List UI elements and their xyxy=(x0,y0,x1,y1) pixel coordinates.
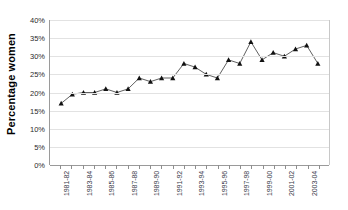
x-axis-tick-mark xyxy=(240,165,241,169)
x-axis-tick-label: 1989-90 xyxy=(153,171,160,196)
x-axis-tick-mark xyxy=(173,165,174,169)
x-axis-tick-mark xyxy=(218,165,219,169)
y-axis-tick-label: 5% xyxy=(34,142,45,151)
y-axis-tick-label: 20% xyxy=(30,88,45,97)
data-point-marker: 1998-99: 34% xyxy=(248,39,253,44)
x-axis-tick-label: 1981-82 xyxy=(63,171,70,196)
x-axis-tick-label: 2001-02 xyxy=(288,171,295,196)
data-point-marker: 1992-93: 28% xyxy=(181,61,186,66)
x-axis-tick-label: 1999-00 xyxy=(266,171,273,196)
data-point-marker: 2004-05: 28% xyxy=(315,61,320,66)
gridline xyxy=(50,147,329,148)
x-axis-tick-mark xyxy=(296,165,297,169)
y-axis-tick-labels: 0%5%10%15%20%25%30%35%40% xyxy=(22,0,48,210)
series-line xyxy=(61,42,318,104)
data-point-marker: 2003-04: 33% xyxy=(304,43,309,48)
x-axis-tick-label: 1985-86 xyxy=(108,171,115,196)
data-point-marker: 1999-00: 29% xyxy=(259,57,264,62)
x-axis-tick-label: 1993-94 xyxy=(198,171,205,196)
data-point-marker: 1996-97: 29% xyxy=(226,57,231,62)
gridline xyxy=(50,111,329,112)
gridline xyxy=(50,56,329,57)
x-axis-tick-mark xyxy=(128,165,129,169)
gridline xyxy=(50,38,329,39)
x-axis-tick-mark xyxy=(251,165,252,169)
gridline xyxy=(50,20,329,21)
y-axis-tick-label: 30% xyxy=(30,52,45,61)
data-point-marker: 2000-01: 31% xyxy=(271,50,276,55)
x-axis-tick-label: 2003-04 xyxy=(311,171,318,196)
x-axis-tick-mark xyxy=(206,165,207,169)
x-axis-tick-label: 1991-92 xyxy=(176,171,183,196)
x-axis-tick-mark xyxy=(285,165,286,169)
x-axis-tick-mark xyxy=(105,165,106,169)
x-axis-tick-mark xyxy=(263,165,264,169)
y-axis-title-text: Percentage women xyxy=(5,33,17,135)
x-axis-tick-mark xyxy=(308,165,309,169)
gridline xyxy=(50,74,329,75)
x-axis-tick-labels: 1981-821983-841985-861987-881989-901991-… xyxy=(49,165,330,210)
x-axis-tick-mark xyxy=(161,165,162,169)
x-axis-tick-mark xyxy=(150,165,151,169)
x-axis-tick-mark xyxy=(184,165,185,169)
gridline xyxy=(50,129,329,130)
x-axis-tick-mark xyxy=(83,165,84,169)
x-axis-tick-label: 1997-98 xyxy=(243,171,250,196)
x-axis-tick-mark xyxy=(94,165,95,169)
data-point-marker: 1985-86: 21% xyxy=(103,86,108,91)
x-axis-tick-mark xyxy=(60,165,61,169)
y-axis-tick-label: 0% xyxy=(34,161,45,170)
y-axis-tick-label: 15% xyxy=(30,106,45,115)
y-axis-tick-label: 40% xyxy=(30,16,45,25)
x-axis-tick-label: 1983-84 xyxy=(86,171,93,196)
y-axis-tick-label: 35% xyxy=(30,34,45,43)
x-axis-tick-label: 1995-96 xyxy=(221,171,228,196)
data-point-marker: 1988-89: 24% xyxy=(137,75,142,80)
gridline xyxy=(50,93,329,94)
plot-area: 1981-82: 17%1982-83: 19.5%1983-84: 20%19… xyxy=(49,20,330,165)
chart-container: Percentage women 0%5%10%15%20%25%30%35%4… xyxy=(0,0,348,210)
x-axis-tick-mark xyxy=(116,165,117,169)
x-axis-tick-mark xyxy=(71,165,72,169)
x-axis-tick-label: 1987-88 xyxy=(131,171,138,196)
x-axis-tick-mark xyxy=(319,165,320,169)
y-axis-tick-label: 10% xyxy=(30,124,45,133)
y-axis-tick-label: 25% xyxy=(30,70,45,79)
x-axis-tick-mark xyxy=(274,165,275,169)
x-axis-tick-mark xyxy=(229,165,230,169)
x-axis-tick-mark xyxy=(195,165,196,169)
x-axis-tick-mark xyxy=(139,165,140,169)
y-axis-title: Percentage women xyxy=(0,0,22,168)
